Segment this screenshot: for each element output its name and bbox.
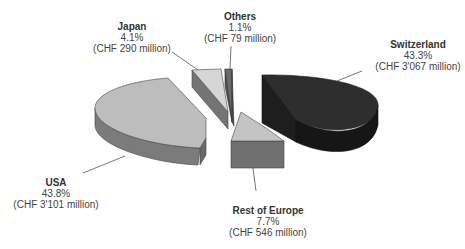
label-japan-amt: (CHF 290 million) (92, 43, 172, 54)
label-japan-name: Japan (92, 21, 172, 32)
label-rest-of-europe-amt: (CHF 546 million) (222, 227, 314, 238)
label-switzerland: Switzerland 43.3% (CHF 3'067 million) (370, 39, 465, 72)
label-others-amt: (CHF 79 million) (200, 33, 280, 44)
label-switzerland-amt: (CHF 3'067 million) (370, 61, 465, 72)
label-usa-amt: (CHF 3'101 million) (10, 199, 102, 210)
label-others: Others 1.1% (CHF 79 million) (200, 11, 280, 44)
label-usa: USA 43.8% (CHF 3'101 million) (10, 177, 102, 210)
label-rest-of-europe: Rest of Europe 7.7% (CHF 546 million) (222, 205, 314, 238)
slice-usa (95, 78, 206, 165)
label-others-pct: 1.1% (200, 22, 280, 33)
label-others-name: Others (200, 11, 280, 22)
label-switzerland-pct: 43.3% (370, 50, 465, 61)
label-japan-pct: 4.1% (92, 32, 172, 43)
label-rest-of-europe-name: Rest of Europe (222, 205, 314, 216)
label-usa-pct: 43.8% (10, 188, 102, 199)
label-rest-of-europe-pct: 7.7% (222, 216, 314, 227)
label-switzerland-name: Switzerland (370, 39, 465, 50)
label-usa-name: USA (10, 177, 102, 188)
label-japan: Japan 4.1% (CHF 290 million) (92, 21, 172, 54)
